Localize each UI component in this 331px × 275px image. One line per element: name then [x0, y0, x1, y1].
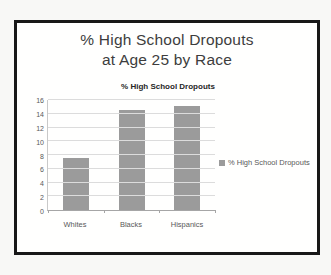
x-category-label: Blacks [103, 220, 159, 229]
bar-column [159, 100, 215, 210]
gridline [48, 168, 215, 169]
main-title-line2: at Age 25 by Race [17, 50, 317, 70]
y-tick-label: 12 [36, 124, 44, 131]
main-title-line1: % High School Dropouts [17, 30, 317, 50]
bar [63, 158, 89, 210]
x-axis-tick-mark [215, 210, 216, 213]
plot-area [47, 100, 215, 211]
gridline [48, 154, 215, 155]
y-axis: 0246810121416 [21, 100, 44, 211]
x-axis-tick-mark [159, 210, 160, 213]
main-title: % High School Dropouts at Age 25 by Race [17, 30, 317, 70]
legend: % High School Dropouts [219, 158, 310, 167]
gridline [48, 195, 215, 196]
bar-column [104, 100, 160, 210]
gridline [48, 127, 215, 128]
x-category-label: Whites [47, 220, 103, 229]
scanned-chart-frame: % High School Dropouts at Age 25 by Race… [14, 20, 320, 255]
bars-container [48, 100, 215, 210]
y-tick-label: 8 [40, 152, 44, 159]
y-tick-label: 16 [36, 97, 44, 104]
gridline [48, 140, 215, 141]
chart-title: % High School Dropouts [37, 82, 299, 91]
y-tick-label: 0 [40, 208, 44, 215]
y-tick-label: 6 [40, 166, 44, 173]
legend-marker-icon [219, 160, 225, 166]
legend-label: % High School Dropouts [228, 158, 310, 167]
gridline [48, 182, 215, 183]
x-category-label: Hispanics [159, 220, 215, 229]
x-axis-tick-mark [48, 210, 49, 213]
gridline [48, 99, 215, 100]
gridline [48, 113, 215, 114]
y-tick-label: 4 [40, 180, 44, 187]
y-tick-label: 14 [36, 110, 44, 117]
y-tick-label: 10 [36, 138, 44, 145]
y-tick-label: 2 [40, 194, 44, 201]
x-axis-tick-mark [104, 210, 105, 213]
x-axis-labels: WhitesBlacksHispanics [47, 220, 215, 229]
bar-column [48, 100, 104, 210]
